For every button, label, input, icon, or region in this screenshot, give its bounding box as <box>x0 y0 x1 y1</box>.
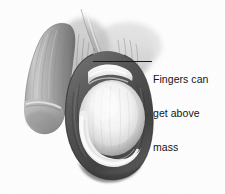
paper-grain <box>0 0 225 194</box>
anatomical-illustration-graphic <box>0 0 225 194</box>
anatomical-figure: Fingers can get above mass <box>0 0 225 194</box>
